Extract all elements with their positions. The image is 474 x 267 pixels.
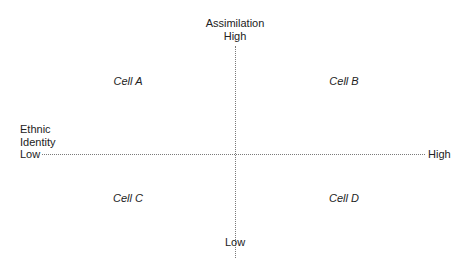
horizontal-axis-ethnic-identity — [42, 154, 425, 155]
x-axis-high-label: High — [428, 148, 451, 160]
y-axis-high-label: High — [224, 30, 247, 42]
cell-d-label: Cell D — [329, 192, 359, 204]
x-axis-low-label: Low — [20, 148, 40, 160]
cell-a-label: Cell A — [114, 75, 143, 87]
vertical-axis-assimilation — [235, 46, 236, 258]
cell-c-label: Cell C — [113, 192, 143, 204]
y-axis-low-label: Low — [225, 236, 245, 248]
x-axis-title-line1: Ethnic — [20, 123, 51, 135]
cell-b-label: Cell B — [329, 75, 358, 87]
x-axis-title-line2: Identity — [20, 136, 55, 148]
y-axis-title: Assimilation — [206, 17, 265, 29]
